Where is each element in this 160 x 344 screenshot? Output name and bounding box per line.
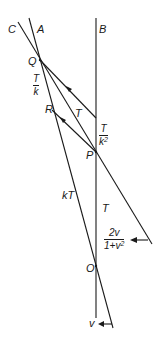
label-O: O — [86, 263, 95, 274]
arrowhead-Q-B — [66, 86, 72, 92]
label-P: P — [86, 150, 93, 161]
label-T-lower: T — [102, 203, 109, 214]
fraction-num: T — [100, 124, 106, 134]
label-Q: Q — [28, 56, 37, 67]
point-Q — [39, 59, 41, 61]
fraction-num: 2v — [109, 228, 120, 238]
diagram-canvas — [0, 0, 160, 344]
point-P — [95, 151, 97, 153]
fraction-T-over-k: T k — [33, 74, 39, 97]
label-T-mid: T — [75, 108, 82, 119]
label-kT: kT — [62, 190, 74, 201]
fraction-T-over-k2: T k2 — [99, 124, 108, 147]
label-C: C — [8, 24, 16, 35]
fraction-2v-over-1-plus-v2: 2v 1+v2 — [104, 228, 124, 251]
label-A: A — [37, 24, 44, 35]
label-B: B — [99, 24, 106, 35]
fraction-den: k2 — [99, 137, 108, 147]
fraction-den: 1+v2 — [104, 241, 124, 251]
line-A-O — [29, 18, 113, 328]
label-R: R — [45, 104, 53, 115]
arrowhead-2v — [130, 237, 137, 243]
fraction-num: T — [33, 74, 39, 84]
arrowhead-v — [98, 321, 104, 327]
line-C-P — [18, 22, 152, 244]
point-O — [95, 265, 97, 267]
label-v: v — [89, 318, 95, 329]
line-R-P — [52, 110, 96, 152]
fraction-den: k — [34, 87, 39, 97]
